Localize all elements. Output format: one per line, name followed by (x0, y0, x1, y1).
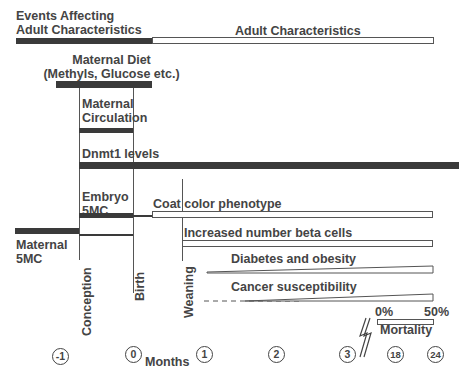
month-tick-neg1: -1 (52, 348, 69, 365)
diabetes-wedge (207, 266, 433, 273)
weaning-label: Weaning (182, 266, 196, 318)
months-label: Months (145, 355, 189, 369)
time-break-icon-2 (364, 318, 371, 357)
month-tick-2: 2 (268, 346, 285, 363)
mortality-high-label: 50% (424, 305, 449, 319)
month-tick-3: 3 (339, 346, 356, 363)
month-tick-18: 18 (387, 346, 404, 363)
cancer-label: Cancer susceptibility (231, 280, 357, 294)
month-tick-1: 1 (196, 346, 213, 363)
cancer-wedge (245, 294, 433, 301)
conception-label: Conception (80, 267, 94, 336)
month-tick-24: 24 (427, 346, 444, 363)
birth-label: Birth (133, 272, 147, 301)
month-tick-0: 0 (125, 346, 142, 363)
mortality-low-label: 0% (375, 305, 393, 319)
mortality-label: Mortality (380, 323, 432, 337)
